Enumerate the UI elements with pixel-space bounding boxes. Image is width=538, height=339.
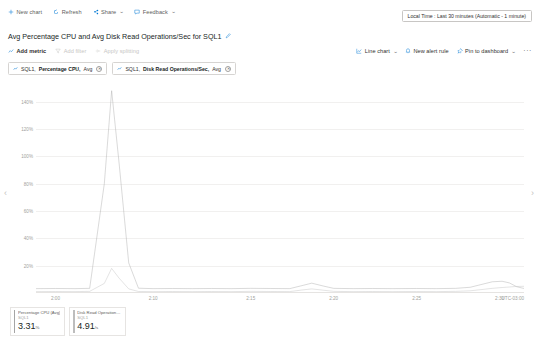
- legend-value: 3.31%: [18, 321, 61, 333]
- chevron-down-icon: ⌄: [119, 9, 124, 14]
- plot-canvas[interactable]: 20%40%60%80%100%120%140% 2:002:102:152:2…: [36, 88, 524, 293]
- legend-unit: /s: [95, 325, 98, 330]
- series-line: [36, 91, 524, 289]
- legend-value: 4.91/s: [77, 321, 121, 333]
- legend-resource-name: SQL1: [18, 316, 61, 321]
- series-lines: [36, 88, 524, 293]
- alert-icon: [405, 48, 411, 54]
- chart-type-label: Line chart: [365, 48, 390, 54]
- metric-pill-metric: Percentage CPU,: [39, 66, 81, 72]
- y-axis-tick-label: 120%: [21, 127, 33, 132]
- metric-pill-scope: SQL1,: [125, 66, 140, 72]
- chevron-down-icon: ⌄: [392, 49, 397, 54]
- add-metric-button[interactable]: Add metric: [8, 48, 46, 54]
- metric-pill-row: SQL1, Percentage CPU, Avg ✕ SQL1, Disk R…: [8, 61, 530, 76]
- feedback-icon: [134, 9, 140, 15]
- metric-icon: [117, 66, 122, 71]
- legend-resource-name: SQL1: [77, 316, 121, 321]
- pin-to-dashboard-button[interactable]: Pin to dashboard ⌄: [457, 48, 516, 54]
- remove-metric-icon[interactable]: ✕: [96, 66, 102, 72]
- legend-unit: %: [35, 325, 39, 330]
- share-label: Share: [101, 9, 116, 15]
- splitting-icon: [95, 48, 101, 54]
- legend-color-swatch: [73, 310, 74, 333]
- refresh-button[interactable]: Refresh: [53, 9, 81, 15]
- chart-toolbar-right: Line chart ⌄ New alert rule Pin to dashb…: [356, 44, 532, 58]
- metric-pill-disk-read-operations[interactable]: SQL1, Disk Read Operations/Sec, Avg ✕: [112, 62, 236, 75]
- metric-icon: [13, 66, 18, 71]
- metric-pill-scope: SQL1,: [21, 66, 36, 72]
- line-chart-icon: [356, 48, 362, 54]
- chart-legend: Percentage CPU (Avg) SQL1 3.31% Disk Rea…: [10, 307, 126, 336]
- y-axis-tick-label: 20%: [24, 263, 33, 268]
- pin-icon: [457, 48, 463, 54]
- apply-splitting-label: Apply splitting: [104, 48, 139, 54]
- apply-splitting-button[interactable]: Apply splitting: [95, 48, 139, 54]
- legend-item-disk-read-operations[interactable]: Disk Read Operations... SQL1 4.91/s: [69, 307, 126, 336]
- x-axis-tick-label: 2:15: [246, 296, 255, 301]
- y-axis-tick-label: 140%: [21, 99, 33, 104]
- chevron-down-icon: ⌄: [511, 49, 516, 54]
- more-options-button[interactable]: ···: [523, 48, 532, 54]
- new-chart-button[interactable]: New chart: [8, 9, 42, 15]
- add-filter-label: Add filter: [64, 48, 87, 54]
- metric-pill-aggregation: Avg: [84, 66, 93, 72]
- chevron-down-icon: ⌄: [170, 9, 175, 14]
- x-axis-tick-label: 2:00: [51, 296, 60, 301]
- page-title: Avg Percentage CPU and Avg Disk Read Ope…: [8, 32, 221, 41]
- plus-icon: [8, 9, 14, 15]
- legend-color-swatch: [14, 310, 15, 333]
- chevron-right-icon[interactable]: ›: [528, 186, 537, 200]
- remove-metric-icon[interactable]: ✕: [225, 66, 231, 72]
- time-range-picker[interactable]: Local Time : Last 30 minutes (Automatic …: [402, 10, 533, 22]
- share-icon: [93, 9, 99, 15]
- chart-type-button[interactable]: Line chart ⌄: [356, 48, 397, 54]
- series-line: [36, 268, 524, 291]
- add-metric-icon: [8, 48, 14, 54]
- x-axis-tick-label: 2:10: [149, 296, 158, 301]
- chart-area: ‹ › 20%40%60%80%100%120%140% 2:002:102:1…: [0, 82, 538, 307]
- pin-to-dashboard-label: Pin to dashboard: [465, 48, 508, 54]
- chart-title-row: Avg Percentage CPU and Avg Disk Read Ope…: [8, 29, 530, 43]
- y-axis-tick-label: 100%: [21, 154, 33, 159]
- feedback-label: Feedback: [143, 9, 168, 15]
- new-alert-rule-label: New alert rule: [413, 48, 448, 54]
- refresh-icon: [53, 9, 59, 15]
- y-axis-tick-label: 60%: [24, 209, 33, 214]
- timezone-label: UTC-03:00: [502, 296, 524, 301]
- metric-pill-percentage-cpu[interactable]: SQL1, Percentage CPU, Avg ✕: [8, 62, 107, 75]
- new-alert-rule-button[interactable]: New alert rule: [405, 48, 449, 54]
- x-axis-line: [36, 292, 524, 293]
- add-metric-label: Add metric: [17, 48, 47, 54]
- share-button[interactable]: Share ⌄: [93, 9, 124, 15]
- x-axis-tick-label: 2:20: [329, 296, 338, 301]
- new-chart-label: New chart: [17, 9, 43, 15]
- chevron-left-icon[interactable]: ‹: [1, 186, 10, 200]
- refresh-label: Refresh: [62, 9, 82, 15]
- feedback-button[interactable]: Feedback ⌄: [134, 9, 174, 15]
- legend-item-percentage-cpu[interactable]: Percentage CPU (Avg) SQL1 3.31%: [10, 307, 65, 336]
- filter-icon: [55, 48, 61, 54]
- y-axis-tick-label: 40%: [24, 236, 33, 241]
- azure-metrics-chart-page: New chart Refresh Share ⌄ Feedback ⌄ Loc…: [0, 0, 538, 339]
- metric-pill-aggregation: Avg: [212, 66, 221, 72]
- x-axis-tick-label: 2:25: [412, 296, 421, 301]
- y-axis-tick-label: 80%: [24, 181, 33, 186]
- add-filter-button[interactable]: Add filter: [55, 48, 86, 54]
- pencil-icon[interactable]: [225, 33, 231, 39]
- metric-pill-metric: Disk Read Operations/Sec,: [143, 66, 209, 72]
